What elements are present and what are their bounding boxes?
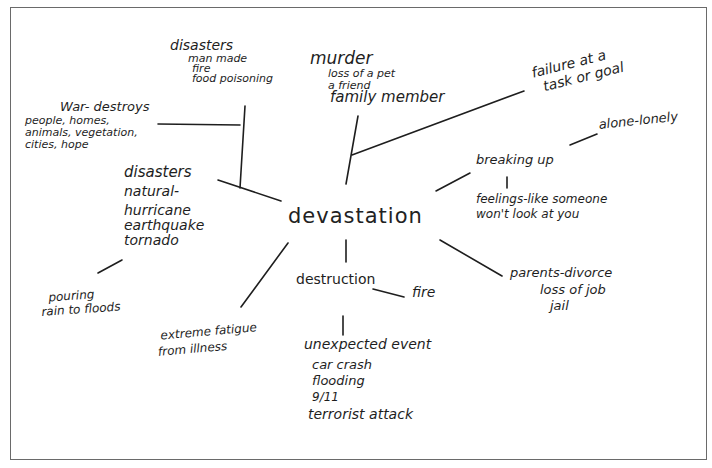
node-line: War- destroys <box>60 100 149 113</box>
node-line: fire <box>412 285 435 299</box>
connector-war <box>158 124 240 125</box>
node-line: won't look at you <box>476 208 607 220</box>
connector-breaking-up <box>436 173 470 191</box>
node-line: cities, hope <box>25 139 149 150</box>
node-line: food poisoning <box>192 73 273 84</box>
connector-fatigue <box>241 243 288 307</box>
connector-man-made-trunk <box>240 106 245 188</box>
node-line: animals, vegetation, <box>25 127 149 138</box>
node-line: 9/11 <box>312 391 431 403</box>
connector-murder <box>346 116 358 184</box>
connector-tornado <box>98 260 122 273</box>
node-line: murder <box>310 50 444 67</box>
node-line: terrorist attack <box>308 407 431 421</box>
node-line: parents-divorce <box>510 266 612 279</box>
connector-natural <box>218 180 281 201</box>
node-line: disasters <box>124 165 204 180</box>
node-line: disasters <box>170 38 273 52</box>
node-line: family member <box>330 90 444 105</box>
node-line: earthquake <box>124 218 204 232</box>
node-pouring: pouring rain to floods <box>40 286 121 317</box>
node-murder: murder loss of a pet a friend family mem… <box>310 50 444 105</box>
node-line: hurricane <box>124 203 204 217</box>
connector-parents <box>440 240 502 276</box>
node-line: people, homes, <box>25 115 149 126</box>
center-word: devastation <box>288 206 423 227</box>
node-destruction: destruction <box>296 272 375 286</box>
connector-alone <box>570 134 597 145</box>
node-line: loss of job <box>540 283 612 296</box>
node-war: War- destroys people, homes, animals, ve… <box>25 100 149 150</box>
node-parents: parents-divorce loss of job jail <box>510 266 612 312</box>
node-unexpected-event: unexpected event car crash flooding 9/11… <box>304 337 431 421</box>
node-line: destruction <box>296 272 375 286</box>
node-breaking-up: breaking up <box>476 153 554 166</box>
node-line: unexpected event <box>304 337 431 351</box>
node-disasters-natural: disasters natural- hurricane earthquake … <box>124 165 204 247</box>
node-disasters-man-made: disasters man made fire food poisoning <box>170 38 273 84</box>
node-line: natural- <box>124 184 204 198</box>
connector-fire <box>373 289 404 297</box>
node-fire: fire <box>412 285 435 299</box>
node-line: jail <box>550 299 612 312</box>
node-line: car crash <box>312 358 431 371</box>
node-line: breaking up <box>476 153 554 166</box>
node-line: feelings-like someone <box>476 193 607 205</box>
node-line: flooding <box>312 374 431 387</box>
node-feelings: feelings-like someone won't look at you <box>476 193 607 220</box>
node-line: tornado <box>124 233 204 247</box>
node-line: loss of a pet <box>328 68 444 79</box>
